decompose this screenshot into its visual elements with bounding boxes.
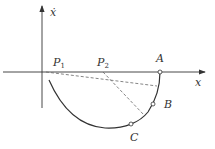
label-p1: P1 (52, 56, 65, 70)
trajectory-curve (49, 72, 160, 128)
label-c: C (130, 131, 139, 144)
label-p2: P2 (96, 56, 109, 70)
x-axis-label: x (195, 76, 202, 89)
label-a: A (155, 52, 164, 65)
dashed-line-p2 (103, 72, 144, 115)
point-a-marker (158, 70, 162, 74)
diagram-svg: ẋ x P1 P2 A B C (0, 0, 215, 149)
phase-diagram: ẋ x P1 P2 A B C (0, 0, 215, 149)
y-axis-label: ẋ (50, 6, 57, 19)
label-b: B (163, 98, 172, 111)
dashed-line-p1 (46, 72, 157, 86)
point-c-marker (129, 122, 133, 126)
point-b-marker (151, 102, 155, 106)
